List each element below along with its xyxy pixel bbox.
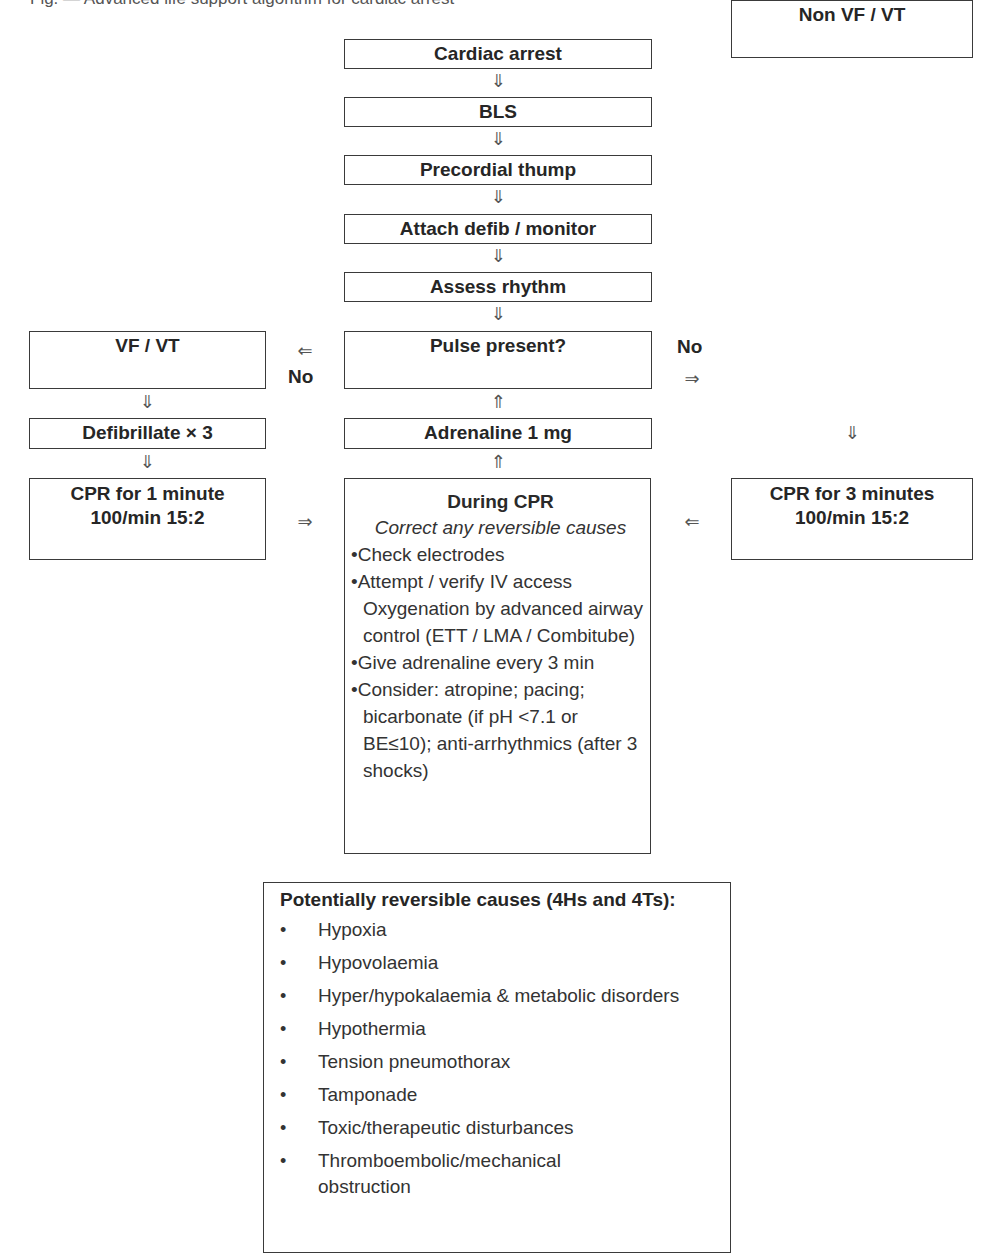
- cpr-item-text: Check electrodes: [358, 544, 505, 565]
- cpr-duration: CPR for 3 minutes: [732, 482, 972, 506]
- rhythm-label: Non VF / VT: [732, 3, 972, 27]
- cpr-item-text: Attempt / verify IV access: [358, 571, 572, 592]
- cpr-item: •Check electrodes: [351, 541, 650, 568]
- cause-item: •Tamponade: [280, 1082, 722, 1108]
- cause-item: •Hyper/hypokalaemia & metabolic disorder…: [280, 983, 722, 1009]
- arrow-up-icon: ⇑: [488, 453, 508, 471]
- step-precordial-thump: Precordial thump: [344, 155, 652, 185]
- rhythm-vf-vt: VF / VT: [29, 331, 266, 389]
- no-label-right: No: [677, 336, 702, 358]
- cpr-item: Oxygenation by advanced airway control (…: [351, 595, 650, 649]
- cpr-rate: 100/min 15:2: [30, 506, 265, 530]
- bullet-icon: •: [280, 983, 286, 1009]
- decision-pulse-present: Pulse present?: [344, 331, 652, 389]
- reversible-causes-box: Potentially reversible causes (4Hs and 4…: [263, 882, 731, 1253]
- arrow-down-icon: ⇓: [488, 247, 508, 265]
- bullet-icon: •: [280, 1148, 286, 1174]
- bullet-icon: •: [351, 571, 358, 592]
- cpr-item-text: Consider: atropine; pacing; bicarbonate …: [358, 679, 638, 781]
- bullet-icon: •: [280, 1016, 286, 1042]
- cpr-item: •Give adrenaline every 3 min: [351, 649, 650, 676]
- decision-label: Pulse present?: [345, 334, 651, 358]
- cropped-caption: Fig. — Advanced life support algorithm f…: [30, 0, 454, 9]
- bullet-icon: •: [280, 917, 286, 943]
- cause-item: •Hypothermia: [280, 1016, 722, 1042]
- adrenaline-1mg: Adrenaline 1 mg: [344, 418, 652, 449]
- bullet-icon: •: [351, 544, 358, 565]
- arrow-down-icon: ⇓: [488, 130, 508, 148]
- step-attach-defib: Attach defib / monitor: [344, 214, 652, 244]
- cause-item: •Hypoxia: [280, 917, 722, 943]
- bullet-icon: •: [280, 1049, 286, 1075]
- arrow-right-icon: ⇒: [293, 513, 317, 531]
- arrow-down-icon: ⇓: [488, 188, 508, 206]
- cause-text: Hypovolaemia: [318, 952, 438, 973]
- cause-item: •Thromboembolic/mechanical obstruction: [280, 1148, 722, 1200]
- cause-item: •Hypovolaemia: [280, 950, 722, 976]
- step-label: Precordial thump: [345, 156, 651, 183]
- rhythm-label: VF / VT: [30, 334, 265, 358]
- during-cpr-heading: During CPR: [351, 489, 650, 515]
- arrow-up-icon: ⇑: [488, 393, 508, 411]
- cause-text: Hypothermia: [318, 1018, 426, 1039]
- cpr-rate: 100/min 15:2: [732, 506, 972, 530]
- defibrillate-x3: Defibrillate × 3: [29, 418, 266, 449]
- step-label: Attach defib / monitor: [345, 215, 651, 242]
- bullet-icon: •: [280, 1082, 286, 1108]
- cause-text: Tension pneumothorax: [318, 1051, 510, 1072]
- arrow-down-icon: ⇓: [488, 72, 508, 90]
- cause-item: •Toxic/therapeutic disturbances: [280, 1115, 722, 1141]
- arrow-down-icon: ⇓: [137, 453, 157, 471]
- step-label: Cardiac arrest: [345, 40, 651, 67]
- cause-text: Toxic/therapeutic disturbances: [318, 1117, 574, 1138]
- cause-text: Hypoxia: [318, 919, 387, 940]
- cpr-item-text: Oxygenation by advanced airway control (…: [363, 598, 643, 646]
- cause-item: •Tension pneumothorax: [280, 1049, 722, 1075]
- no-label-left: No: [288, 366, 313, 388]
- bullet-icon: •: [280, 950, 286, 976]
- bullet-icon: •: [280, 1115, 286, 1141]
- arrow-down-icon: ⇓: [842, 424, 862, 442]
- cpr-item: •Consider: atropine; pacing; bicarbonate…: [351, 676, 650, 784]
- cause-text: Hyper/hypokalaemia & metabolic disorders: [318, 985, 679, 1006]
- during-cpr-box: During CPR Correct any reversible causes…: [344, 478, 651, 854]
- step-cardiac-arrest: Cardiac arrest: [344, 39, 652, 69]
- rhythm-non-vf-vt: Non VF / VT: [731, 0, 973, 58]
- arrow-down-icon: ⇓: [488, 305, 508, 323]
- reversible-causes-heading: Potentially reversible causes (4Hs and 4…: [280, 887, 722, 913]
- cpr-item: •Attempt / verify IV access: [351, 568, 650, 595]
- cpr-item-text: Give adrenaline every 3 min: [358, 652, 595, 673]
- cause-text: Thromboembolic/mechanical obstruction: [318, 1150, 561, 1197]
- step-bls: BLS: [344, 97, 652, 127]
- bullet-icon: •: [351, 652, 358, 673]
- action-label: Defibrillate × 3: [30, 419, 265, 447]
- arrow-right-icon: ⇒: [680, 370, 704, 388]
- step-label: Assess rhythm: [345, 273, 651, 300]
- bullet-icon: •: [351, 679, 358, 700]
- arrow-left-icon: ⇐: [680, 513, 704, 531]
- during-cpr-subheading: Correct any reversible causes: [351, 515, 650, 541]
- cause-text: Tamponade: [318, 1084, 417, 1105]
- step-assess-rhythm: Assess rhythm: [344, 272, 652, 302]
- arrow-left-icon: ⇐: [293, 342, 317, 360]
- adrenaline-label: Adrenaline 1 mg: [345, 419, 651, 447]
- cpr-duration: CPR for 1 minute: [30, 482, 265, 506]
- reversible-causes-list: •Hypoxia •Hypovolaemia •Hyper/hypokalaem…: [280, 917, 722, 1200]
- cpr-1-minute: CPR for 1 minute 100/min 15:2: [29, 478, 266, 560]
- step-label: BLS: [345, 98, 651, 125]
- arrow-down-icon: ⇓: [137, 393, 157, 411]
- cpr-3-minutes: CPR for 3 minutes 100/min 15:2: [731, 478, 973, 560]
